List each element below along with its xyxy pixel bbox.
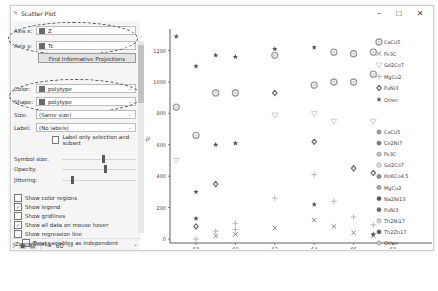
input-icon: ⇥ xyxy=(46,242,51,250)
legend-color-swatch xyxy=(377,185,381,189)
point-triangle[interactable] xyxy=(331,119,337,124)
report-icon[interactable]: ▤ xyxy=(30,242,36,250)
point-plus[interactable] xyxy=(193,236,199,242)
control-panel: Axis x: Z Axis y: Tc Find Informative Pr… xyxy=(12,21,140,250)
point-star[interactable] xyxy=(213,53,218,58)
scatter-plot-svg[interactable]: 020040060080010001200586062646668ZTc CaC… xyxy=(142,21,432,249)
legend-color-swatch xyxy=(377,141,381,145)
point-star[interactable] xyxy=(193,189,198,194)
legend-color-item: PuNi3 xyxy=(384,207,398,213)
y-tick-label: 600 xyxy=(156,142,166,148)
label-only-selection-checkbox[interactable]: Label only selection and subset xyxy=(52,135,140,145)
size-row: Size: xyxy=(14,110,34,120)
point-star[interactable] xyxy=(312,202,317,207)
size-select[interactable]: (Same size) ⌄ xyxy=(36,110,136,119)
point-plus[interactable] xyxy=(370,222,376,228)
point-diamond[interactable] xyxy=(194,224,198,229)
checkbox-icon xyxy=(14,230,22,238)
close-button[interactable]: ✕ xyxy=(412,8,428,20)
point-diamond[interactable] xyxy=(377,85,381,90)
label-row: Label: xyxy=(14,123,34,133)
point-plus[interactable] xyxy=(232,220,238,226)
checkbox-icon xyxy=(52,136,59,144)
legend-color-item: Na2Ni13 xyxy=(384,196,405,202)
legend-color-item: Gd2Co7 xyxy=(384,162,404,168)
window-title: Scatter Plot xyxy=(21,10,56,17)
find-projections-button[interactable]: Find Informative Projections xyxy=(38,53,136,63)
point-star[interactable] xyxy=(233,140,238,145)
legend-color-item: Th2Zn17 xyxy=(383,229,406,235)
legend-color-item: Ce2Ni7 xyxy=(384,140,402,146)
point-star[interactable] xyxy=(213,142,218,147)
label-label: Label: xyxy=(14,125,34,131)
point-x[interactable] xyxy=(351,231,355,235)
y-tick-label: 800 xyxy=(156,110,166,116)
jittering-thumb[interactable] xyxy=(71,176,74,184)
point-star[interactable] xyxy=(272,46,277,51)
legend-shape-item: Other xyxy=(384,97,399,103)
point-triangle[interactable] xyxy=(370,119,376,124)
point-plus[interactable] xyxy=(232,227,238,233)
point-x[interactable] xyxy=(214,234,218,238)
x-tick-label: 66 xyxy=(350,246,356,249)
y-axis-title: Tc xyxy=(145,136,151,142)
point-diamond[interactable] xyxy=(214,181,218,186)
point-star[interactable] xyxy=(312,45,317,50)
point-triangle[interactable] xyxy=(173,159,179,164)
point-plus[interactable] xyxy=(272,195,278,201)
point-x[interactable] xyxy=(332,224,336,228)
chevron-down-icon[interactable]: ⌄ xyxy=(133,240,138,247)
point-diamond[interactable] xyxy=(273,90,277,95)
point-star[interactable] xyxy=(233,54,238,59)
x-tick-label: 62 xyxy=(272,246,278,249)
point-star[interactable] xyxy=(193,64,198,69)
label-value: (No labels) xyxy=(39,125,69,131)
checkbox-checked-icon: ✓ xyxy=(14,221,22,229)
symbol-size-row: Symbol size: xyxy=(14,154,49,164)
point-diamond[interactable] xyxy=(371,170,375,175)
show-legend-label: Show legend xyxy=(25,204,60,210)
legend-color-swatch xyxy=(377,130,381,134)
show-gridlines-label: Show gridlines xyxy=(25,213,65,219)
point-x[interactable] xyxy=(273,226,277,230)
point-plus[interactable] xyxy=(331,198,337,204)
symbol-size-thumb[interactable] xyxy=(102,155,105,163)
point-star[interactable] xyxy=(376,97,381,102)
legend-color-swatch xyxy=(377,219,381,223)
point-triangle[interactable] xyxy=(376,63,382,68)
point-triangle[interactable] xyxy=(311,111,317,116)
symbol-size-slider[interactable] xyxy=(62,159,136,160)
opacity-slider[interactable] xyxy=(62,169,136,170)
scatter-plot-area[interactable]: 020040060080010001200586062646668ZTc CaC… xyxy=(142,21,432,249)
point-x[interactable] xyxy=(233,232,237,236)
point-triangle[interactable] xyxy=(272,113,278,118)
x-tick-label: 58 xyxy=(193,246,199,249)
show-all-data-hover-label: Show all data on mouse hover xyxy=(25,222,108,228)
point-plus[interactable] xyxy=(213,228,219,234)
point-plus[interactable] xyxy=(351,214,357,220)
point-diamond[interactable] xyxy=(312,139,316,144)
scatter-plot-window: ✎ Scatter Plot – ☐ ✕ Axis x: Z Axis y: T… xyxy=(10,5,434,251)
bottom-toolbar: ? ▣ ▤ | ⇥ 60 ⇨ xyxy=(12,242,73,250)
label-select[interactable]: (No labels) ⌄ xyxy=(36,123,136,132)
maximize-button[interactable]: ☐ xyxy=(391,8,407,20)
legend-color-item: Other xyxy=(384,240,399,246)
label-only-selection-label: Label only selection and subset xyxy=(62,134,140,146)
x-tick-label: 60 xyxy=(232,246,238,249)
minimize-button[interactable]: – xyxy=(371,8,387,20)
help-icon[interactable]: ? xyxy=(12,242,15,250)
opacity-thumb[interactable] xyxy=(104,165,107,173)
save-image-icon[interactable]: ▣ xyxy=(19,242,25,250)
legend-color-swatch xyxy=(377,208,381,212)
jittering-label: Jittering: xyxy=(14,177,37,183)
point-star[interactable] xyxy=(174,34,179,39)
point-diamond[interactable] xyxy=(351,166,355,171)
point-plus[interactable] xyxy=(311,172,317,178)
point-x[interactable] xyxy=(312,218,316,222)
y-tick-label: 1200 xyxy=(153,48,166,54)
output-icon: ⇨ xyxy=(68,242,73,250)
point-star[interactable] xyxy=(193,216,198,221)
title-bar: ✎ Scatter Plot – ☐ ✕ xyxy=(11,6,433,21)
legend-color-swatch xyxy=(377,196,381,200)
point-x[interactable] xyxy=(377,51,381,55)
